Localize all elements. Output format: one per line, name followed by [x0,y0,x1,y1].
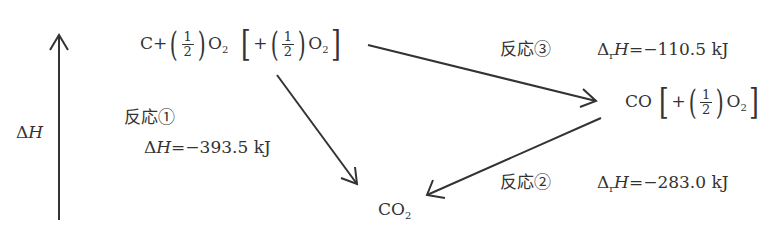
product-carbon-dioxide: CO2 [378,201,411,221]
reaction-2-label: 反応② [500,174,551,191]
h-symbol: H [156,137,171,157]
plus: + [671,91,685,111]
left-bracket: [ [659,84,669,120]
reaction-1-label: 反応① [124,109,175,126]
fraction-half: 12 [700,88,712,116]
right-bracket: ] [331,26,341,62]
delta-symbol: Δ [16,122,28,142]
right-paren: ) [716,85,724,119]
co: CO [378,199,405,219]
numerator: 1 [700,88,712,103]
left-paren: ( [688,85,696,119]
reaction-3-enthalpy: ΔrH=−110.5 kJ [597,41,729,61]
left-bracket: [ [241,26,251,62]
fraction-half: 12 [182,30,194,58]
h-symbol: H [614,39,629,59]
oxygen: O [726,91,740,111]
enthalpy-axis-arrow [50,35,68,220]
right-paren: ) [197,27,205,61]
reaction-1-enthalpy: ΔH=−393.5 kJ [144,139,271,156]
left-paren: ( [170,27,178,61]
h-symbol: H [28,122,43,142]
denominator: 2 [702,103,710,117]
carbon-plus: C+ [140,33,167,53]
delta-symbol: Δ [144,137,156,157]
subscript: 2 [322,44,328,55]
oxygen: O [308,33,322,53]
plus: + [253,33,267,53]
subscript: 2 [222,44,228,55]
subscript: 2 [740,102,746,113]
numerator: 1 [182,30,194,45]
delta-symbol: Δ [597,172,609,192]
right-bracket: ] [749,84,759,120]
co: CO [625,91,652,111]
left-paren: ( [270,27,278,61]
fraction-half: 12 [282,30,294,58]
numerator: 1 [282,30,294,45]
intermediate-carbon-monoxide: CO [+(12)O2] [625,84,761,120]
enthalpy-value: =−283.0 kJ [629,172,729,192]
reaction-2-enthalpy: ΔrH=−283.0 kJ [597,174,729,194]
enthalpy-axis-label: ΔH [16,124,43,141]
subscript: 2 [405,210,411,221]
reaction-1-arrow [277,75,357,184]
denominator: 2 [184,45,192,59]
enthalpy-value: =−110.5 kJ [629,39,729,59]
reaction-3-arrow [368,45,596,107]
enthalpy-value: =−393.5 kJ [171,137,271,157]
h-symbol: H [614,172,629,192]
right-paren: ) [298,27,306,61]
reaction-3-label: 反応③ [500,41,551,58]
reactant-carbon-oxygen: C+(12)O2 [+(12)O2] [140,26,343,62]
delta-symbol: Δ [597,39,609,59]
denominator: 2 [284,45,292,59]
oxygen: O [208,33,222,53]
